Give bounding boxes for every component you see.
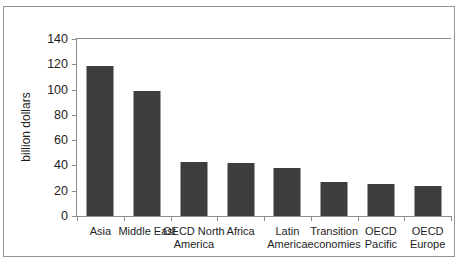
plot-area: 020406080100120140 AsiaMiddle EastOECD N… — [76, 38, 451, 217]
bar-slot — [77, 39, 124, 216]
y-axis-tick-label: 140 — [47, 32, 77, 46]
bar[interactable] — [134, 91, 161, 216]
y-axis-tick-label: 0 — [61, 209, 77, 223]
x-axis-tick-mark — [124, 216, 125, 221]
clipped-caption-text — [0, 0, 461, 3]
x-axis-tick-mark — [77, 216, 78, 221]
bar[interactable] — [274, 168, 301, 216]
bar[interactable] — [227, 163, 254, 216]
bar[interactable] — [87, 66, 114, 216]
y-axis-tick-label: 60 — [54, 133, 77, 147]
bar-slot — [124, 39, 171, 216]
y-axis-tick-label: 20 — [54, 184, 77, 198]
y-axis-title: billion dollars — [18, 38, 34, 215]
x-axis-category-label: OECD Europe — [397, 225, 459, 250]
bar-series — [77, 39, 451, 216]
figure-root: billion dollars 020406080100120140 AsiaM… — [0, 0, 461, 262]
bar[interactable] — [321, 182, 348, 216]
bar-slot — [311, 39, 358, 216]
bar[interactable] — [180, 162, 207, 216]
y-axis-tick-label: 100 — [47, 83, 77, 97]
bar-slot — [358, 39, 405, 216]
y-axis-tick-label: 40 — [54, 158, 77, 172]
x-axis-tick-mark — [171, 216, 172, 221]
x-axis-tick-mark — [217, 216, 218, 221]
x-axis-tick-mark — [358, 216, 359, 221]
y-axis-title-label: billion dollars — [19, 92, 33, 161]
bar-slot — [404, 39, 451, 216]
x-axis-tick-mark — [404, 216, 405, 221]
bar-slot — [217, 39, 264, 216]
bar-slot — [264, 39, 311, 216]
x-axis-tick-mark — [311, 216, 312, 221]
x-axis-tick-mark — [451, 216, 452, 221]
x-axis-tick-mark — [264, 216, 265, 221]
figure-frame: billion dollars 020406080100120140 AsiaM… — [3, 6, 455, 257]
y-axis-tick-label: 120 — [47, 57, 77, 71]
bar[interactable] — [367, 184, 394, 216]
y-axis-tick-label: 80 — [54, 108, 77, 122]
bar[interactable] — [414, 186, 441, 216]
bar-slot — [171, 39, 218, 216]
